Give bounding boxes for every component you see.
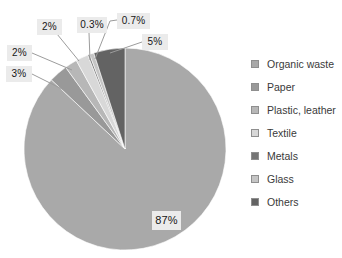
callout-plastic-leather: 2% bbox=[7, 45, 32, 61]
legend-item-glass: Glass bbox=[251, 173, 336, 185]
callout-textile: 2% bbox=[37, 19, 62, 35]
callout-paper: 3% bbox=[6, 66, 32, 82]
legend-item-plastic-leather: Plastic, leather bbox=[251, 104, 336, 116]
legend-label-plastic-leather: Plastic, leather bbox=[267, 105, 336, 116]
legend-label-glass: Glass bbox=[267, 174, 294, 185]
callout-organic-waste: 87% bbox=[152, 211, 181, 230]
legend-item-others: Others bbox=[251, 196, 336, 208]
legend-item-organic-waste: Organic waste bbox=[251, 58, 336, 70]
legend-item-paper: Paper bbox=[251, 81, 336, 93]
legend-label-others: Others bbox=[267, 197, 299, 208]
legend-item-metals: Metals bbox=[251, 150, 336, 162]
legend-swatch-textile bbox=[251, 129, 259, 137]
leader-line-textile bbox=[57, 34, 79, 61]
callout-glass: 0.7% bbox=[117, 13, 150, 29]
legend-label-organic-waste: Organic waste bbox=[267, 59, 334, 70]
legend-swatch-paper bbox=[251, 83, 259, 91]
leader-line-plastic-leather bbox=[32, 53, 72, 70]
legend-swatch-organic-waste bbox=[251, 60, 259, 68]
legend-swatch-plastic-leather bbox=[251, 106, 259, 114]
legend-label-paper: Paper bbox=[267, 82, 295, 93]
legend-swatch-glass bbox=[251, 175, 259, 183]
pie-chart-figure: 87% 3% 2% 2% 0.3% 0.7% 5% Organic waste … bbox=[0, 0, 342, 258]
legend-swatch-others bbox=[251, 198, 259, 206]
legend-label-textile: Textile bbox=[267, 128, 297, 139]
legend-item-textile: Textile bbox=[251, 127, 336, 139]
legend-swatch-metals bbox=[251, 152, 259, 160]
callout-others: 5% bbox=[142, 34, 168, 50]
legend: Organic waste Paper Plastic, leather Tex… bbox=[251, 58, 336, 208]
legend-label-metals: Metals bbox=[267, 151, 298, 162]
callout-metals: 0.3% bbox=[77, 17, 107, 33]
